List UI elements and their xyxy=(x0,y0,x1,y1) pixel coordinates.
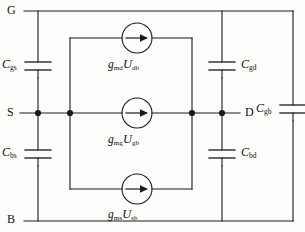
capacitor-label-cgb: Cgb xyxy=(256,102,272,115)
node-dot-drain-inner xyxy=(189,110,195,116)
cgb-subscript: gb xyxy=(264,107,272,116)
capacitor-label-cbd: Cbd xyxy=(241,146,257,159)
cbs-subscript: bs xyxy=(10,151,17,160)
arrowhead-mg-icon xyxy=(140,109,148,117)
src-md-gm-subscript: md xyxy=(114,64,123,72)
cbd-symbol: C xyxy=(241,145,249,159)
terminal-label-drain: D xyxy=(245,106,254,118)
current-source-label-mg: gmgUgb xyxy=(108,133,139,147)
current-source-label-ms: gmsUsb xyxy=(108,208,138,222)
src-ms-u-subscript: sb xyxy=(131,214,137,222)
cgd-subscript: gd xyxy=(249,63,257,72)
cgd-symbol: C xyxy=(241,57,249,71)
capacitor-label-cgd: Cgd xyxy=(241,58,257,71)
capacitor-label-cgs: Cgs xyxy=(2,58,17,71)
src-mg-u-symbol: U xyxy=(123,132,132,146)
circuit-schematic-canvas xyxy=(0,0,305,232)
node-dot-drain-right xyxy=(219,110,225,116)
arrowhead-md-icon xyxy=(140,34,148,42)
terminal-label-bulk: B xyxy=(7,213,15,225)
terminal-label-source: S xyxy=(7,106,14,118)
src-ms-gm-subscript: ms xyxy=(114,214,122,222)
cbd-subscript: bd xyxy=(249,151,257,160)
circuit-diagram: G S D B Cgs Cbs Cgd Cbd Cgb gmdUdb gmgUg… xyxy=(0,0,305,232)
cbs-symbol: C xyxy=(2,145,10,159)
cgb-symbol: C xyxy=(256,101,264,115)
current-source-label-md: gmdUdb xyxy=(108,58,139,72)
node-dot-source-mid xyxy=(67,110,73,116)
terminal-label-gate: G xyxy=(7,4,16,16)
node-dot-source-left xyxy=(35,110,41,116)
cgs-symbol: C xyxy=(2,57,10,71)
src-md-u-subscript: db xyxy=(132,64,139,72)
src-ms-u-symbol: U xyxy=(122,207,131,221)
arrowhead-ms-icon xyxy=(140,185,148,193)
src-md-u-symbol: U xyxy=(123,57,132,71)
cgs-subscript: gs xyxy=(10,63,17,72)
capacitor-label-cbs: Cbs xyxy=(2,146,17,159)
src-mg-u-subscript: gb xyxy=(132,139,139,147)
src-mg-gm-subscript: mg xyxy=(114,139,123,147)
